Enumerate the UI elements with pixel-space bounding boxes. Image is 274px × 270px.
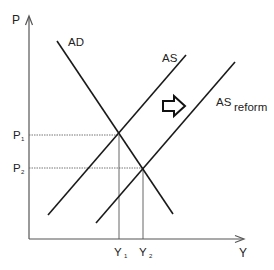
ad-label: AD (68, 36, 84, 48)
ad-as-diagram: P Y AD AS AS reform P 1 P 2 Y 1 Y 2 (0, 0, 274, 270)
svg-text:AS: AS (216, 96, 232, 108)
y1-label: Y 1 (114, 246, 128, 259)
y2-label: Y 2 (139, 246, 153, 259)
as-label: AS (162, 52, 178, 64)
as-curve (48, 55, 186, 215)
right-outline-arrow-icon (163, 96, 185, 116)
svg-text:2: 2 (21, 169, 25, 175)
as-reform-curve (96, 62, 235, 223)
x-axis-label: Y (239, 246, 247, 260)
p1-label: P 1 (13, 129, 25, 142)
svg-text:P: P (13, 129, 21, 141)
svg-text:2: 2 (149, 253, 153, 259)
guide-lines (29, 135, 143, 168)
svg-text:1: 1 (21, 136, 25, 142)
ad-curve (57, 41, 173, 214)
axes (26, 16, 245, 243)
svg-text:Y: Y (139, 246, 147, 258)
p2-label: P 2 (13, 162, 25, 175)
svg-text:1: 1 (124, 253, 128, 259)
svg-text:reform: reform (234, 101, 267, 113)
svg-text:P: P (13, 162, 21, 174)
as-reform-label: AS reform (216, 96, 267, 113)
svg-text:Y: Y (114, 246, 122, 258)
y-axis-label: P (12, 13, 20, 27)
